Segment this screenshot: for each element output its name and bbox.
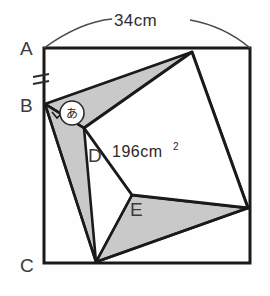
dimension-arc-right — [190, 20, 250, 48]
geometry-diagram: 34cm A B C D E 196cm 2 あ — [0, 0, 270, 296]
dimension-label-34cm: 34cm — [114, 11, 157, 30]
area-label-value: 196cm — [112, 143, 163, 160]
label-D: D — [88, 145, 102, 166]
top-dimension-group: 34cm — [44, 11, 250, 48]
label-B: B — [20, 95, 33, 116]
area-label-exponent: 2 — [173, 141, 179, 152]
label-A: A — [20, 38, 33, 59]
equal-length-tick-AB — [33, 74, 49, 84]
angle-marker-text: あ — [66, 107, 78, 121]
label-E: E — [130, 199, 143, 220]
label-C: C — [20, 255, 34, 276]
dimension-arc-left — [44, 19, 112, 48]
angle-marker-a: あ — [60, 101, 84, 125]
geometry-figure: 34cm A B C D E 196cm 2 あ — [0, 0, 270, 296]
inner-square — [84, 52, 248, 208]
